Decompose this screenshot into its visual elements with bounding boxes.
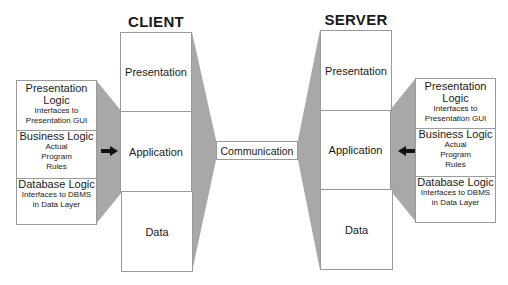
layer-label: Application bbox=[129, 146, 183, 158]
logic-heading: Business Logic bbox=[20, 130, 94, 142]
layer-label: Application bbox=[329, 144, 383, 156]
server-database-logic: Database Logic Interfaces to DBMS in Dat… bbox=[416, 175, 495, 224]
logic-heading: Database Logic bbox=[18, 178, 94, 190]
logic-subtext: Interfaces to Presentation GUI bbox=[416, 104, 495, 124]
server-logic-box: Presentation Logic Interfaces to Present… bbox=[415, 78, 496, 223]
client-layer-presentation: Presentation bbox=[120, 32, 192, 112]
server-presentation-logic: Presentation Logic Interfaces to Present… bbox=[416, 79, 495, 129]
server-layer-presentation: Presentation bbox=[320, 30, 392, 111]
client-title: CLIENT bbox=[120, 13, 192, 30]
server-business-logic: Business Logic Actual Program Rules bbox=[416, 127, 495, 177]
layer-label: Presentation bbox=[325, 65, 387, 77]
logic-subtext: Actual Program Rules bbox=[17, 142, 96, 172]
layer-label: Presentation bbox=[125, 66, 187, 78]
server-title: SERVER bbox=[320, 11, 392, 28]
client-presentation-logic: Presentation Logic Interfaces to Present… bbox=[17, 81, 96, 131]
logic-subtext: Actual Program Rules bbox=[416, 140, 495, 170]
communication-label: Communication bbox=[221, 145, 294, 157]
logic-heading: Presentation Logic bbox=[17, 82, 96, 106]
client-business-logic: Business Logic Actual Program Rules bbox=[17, 129, 96, 179]
logic-heading: Presentation Logic bbox=[416, 80, 495, 104]
layer-label: Data bbox=[145, 226, 168, 238]
logic-heading: Business Logic bbox=[419, 128, 493, 140]
server-layer-application: Application bbox=[320, 110, 391, 190]
logic-subtext: Interfaces to DBMS in Data Layer bbox=[17, 190, 96, 210]
client-comm-taper-shade bbox=[192, 32, 216, 272]
logic-heading: Database Logic bbox=[417, 176, 493, 188]
client-layer-data: Data bbox=[121, 191, 193, 272]
server-comm-taper-shade bbox=[298, 30, 320, 270]
logic-subtext: Interfaces to Presentation GUI bbox=[17, 106, 96, 126]
client-layer-application: Application bbox=[120, 111, 192, 192]
logic-subtext: Interfaces to DBMS in Data Layer bbox=[416, 188, 495, 208]
server-layer-data: Data bbox=[320, 189, 393, 270]
communication-box: Communication bbox=[216, 141, 298, 160]
client-database-logic: Database Logic Interfaces to DBMS in Dat… bbox=[17, 177, 96, 226]
layer-label: Data bbox=[345, 224, 368, 236]
client-logic-box: Presentation Logic Interfaces to Present… bbox=[16, 80, 97, 225]
